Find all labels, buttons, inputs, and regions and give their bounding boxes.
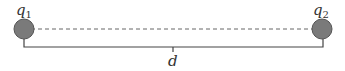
distance-bracket: [24, 39, 323, 47]
label-distance: d: [168, 52, 178, 70]
label-q2: q2: [313, 1, 329, 20]
charge-distance-diagram: q1 q2 d: [0, 0, 345, 71]
label-q1: q1: [16, 1, 32, 20]
charge-q1: [14, 19, 34, 39]
charge-q2: [312, 19, 332, 39]
